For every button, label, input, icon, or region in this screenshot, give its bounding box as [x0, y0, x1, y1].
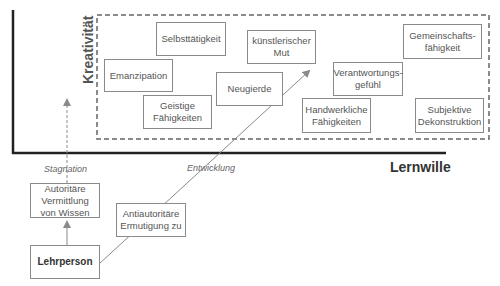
entwicklung-label: Entwicklung [187, 163, 235, 173]
box-geistige-faehigkeiten: Geistige Fähigkeiten [143, 95, 212, 129]
box-selbsttaetigkeit: Selbsttätigkeit [156, 22, 226, 56]
stagnation-label: Stagnation [44, 164, 87, 174]
box-autoritaere-vermittlung: Autoritäre Vermittlung von Wissen [30, 183, 100, 218]
box-neugierde: Neugierde [216, 72, 283, 106]
box-handwerkliche-faehigkeiten: Handwerkliche Fähigkeiten [302, 98, 371, 133]
box-verantwortungsgefuehl: Verantwortungs-gefühl [333, 62, 403, 96]
box-lehrperson: Lehrperson [30, 245, 100, 279]
box-gemeinschaftsfaehigkeit: Gemeinschafts-fähigkeit [403, 24, 482, 59]
x-axis-label: Lernwille [390, 159, 451, 175]
box-subjektive-dekonstruktion: Subjektive Dekonstruktion [415, 98, 484, 133]
y-axis-label: Kreativität [80, 16, 96, 84]
box-emanzipation: Emanzipation [104, 59, 173, 92]
box-kuenstlerischer-mut: künstlerischer Mut [247, 30, 316, 64]
box-antiautoritaere-ermutigung: Antiautoritäre Ermutigung zu [116, 203, 186, 237]
